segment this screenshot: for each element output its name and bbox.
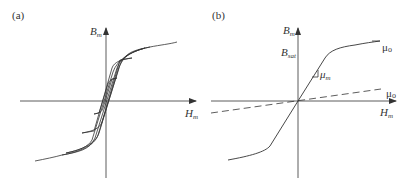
- saturation-tail-lower: [35, 155, 62, 161]
- y-axis-label: Bm: [90, 25, 102, 39]
- saturation-tail-upper: [150, 42, 177, 47]
- bh-curve: [228, 41, 380, 160]
- x-axis-label: Hm: [379, 106, 393, 120]
- y-axis-label: Bm: [283, 24, 295, 38]
- panel-a: (a) Bm Hm: [12, 9, 198, 178]
- slope-label-saturated: μo: [382, 41, 392, 54]
- panel-b: (b) Bm Bsat Hm μm μo μo: [211, 9, 396, 178]
- panel-a-label: (a): [12, 9, 25, 22]
- panel-b-label: (b): [212, 9, 225, 22]
- saturation-label: Bsat: [281, 46, 297, 60]
- x-axis-label: Hm: [184, 107, 198, 121]
- slope-label-vacuum: μo: [386, 87, 396, 100]
- diagram-canvas: (a) Bm Hm (b) B: [0, 0, 411, 183]
- slope-label-linear: μm: [319, 68, 331, 82]
